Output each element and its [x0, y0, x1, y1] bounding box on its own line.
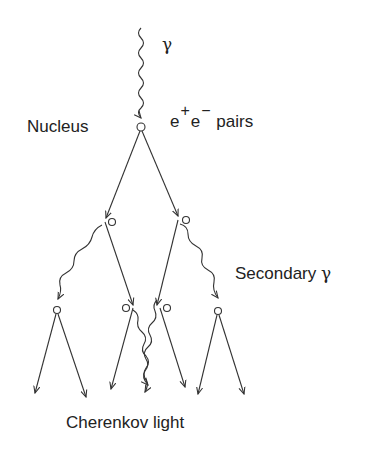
vertex-left-conversion	[54, 307, 61, 314]
pair-right-a	[198, 315, 217, 394]
secondary-photon-right	[180, 224, 218, 298]
cherenkov-photon-left	[133, 310, 149, 392]
vertex-left	[109, 219, 116, 226]
diagram-graphics	[0, 0, 376, 452]
plus-sign: +	[180, 102, 189, 119]
electron-continue-left	[105, 222, 133, 305]
positron-track-right	[142, 131, 178, 216]
pair-production-label: e+e− pairs	[170, 112, 253, 132]
electron-symbol-2: e	[191, 112, 200, 131]
secondary-gamma-symbol: γ	[321, 263, 331, 283]
electron-left-mid	[111, 308, 133, 389]
cherenkov-light-label: Cherenkov light	[66, 413, 184, 433]
electron-right-mid	[160, 308, 185, 387]
pairs-word: pairs	[216, 112, 253, 131]
incoming-photon-wave	[139, 28, 144, 118]
minus-sign: −	[201, 102, 210, 119]
vertex-right-mid	[164, 305, 171, 312]
incoming-gamma-label: γ	[162, 34, 172, 54]
pair-left-b	[58, 314, 86, 397]
secondary-word: Secondary	[235, 264, 316, 283]
pair-right-b	[219, 315, 244, 394]
nucleus-vertex	[137, 123, 145, 131]
electron-continue-right	[157, 220, 178, 305]
vertex-left-mid	[123, 305, 130, 312]
nucleus-label: Nucleus	[27, 117, 88, 137]
secondary-photon-left	[58, 225, 102, 299]
vertex-right-conversion	[215, 308, 222, 315]
cherenkov-photon-right	[144, 300, 157, 385]
electron-track-left	[106, 131, 140, 218]
vertex-right	[183, 217, 190, 224]
shower-diagram: γ Nucleus e+e− pairs Secondary γ Cherenk…	[0, 0, 376, 452]
secondary-gamma-label: Secondary γ	[235, 263, 331, 284]
pair-left-a	[35, 314, 56, 393]
electron-symbol: e	[170, 112, 179, 131]
